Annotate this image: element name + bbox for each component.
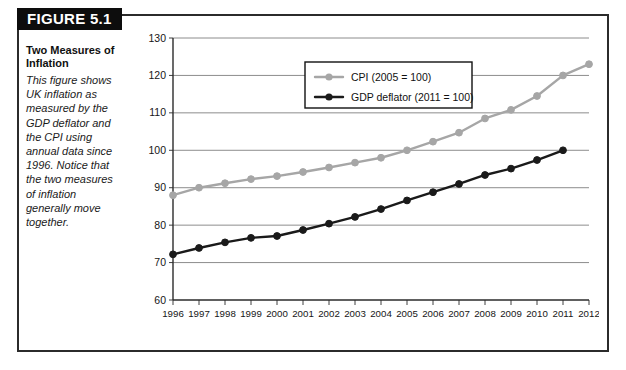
data-point-marker (274, 233, 281, 240)
inflation-line-chart: 6070809010011012013019961997199819992000… (133, 24, 599, 340)
figure-caption: Two Measures of Inflation This figure sh… (26, 44, 122, 229)
data-point-marker (222, 180, 229, 187)
y-axis-tick-label: 90 (154, 181, 166, 193)
data-point-marker (196, 184, 203, 191)
x-axis-tick-label: 2010 (526, 308, 548, 319)
x-axis-tick-label: 1997 (188, 308, 210, 319)
y-axis-tick-label: 130 (148, 32, 166, 44)
data-point-marker (326, 220, 333, 227)
chart-legend: CPI (2005 = 100)GDP deflator (2011 = 100… (305, 62, 473, 108)
data-point-marker (560, 147, 567, 154)
caption-title: Two Measures of Inflation (26, 44, 122, 70)
data-point-marker (196, 245, 203, 252)
data-point-marker (430, 189, 437, 196)
data-point-marker (352, 159, 359, 166)
data-point-marker (508, 106, 515, 113)
data-point-marker (222, 239, 229, 246)
data-point-marker (326, 164, 333, 171)
x-axis-tick-label: 2012 (578, 308, 599, 319)
data-point-marker (404, 147, 411, 154)
y-axis-tick-label: 70 (154, 256, 166, 268)
series-line (173, 150, 563, 254)
legend-swatch-marker (325, 93, 332, 100)
x-axis-tick-label: 2008 (474, 308, 496, 319)
data-point-marker (352, 214, 359, 221)
data-point-marker (482, 172, 489, 179)
x-axis-tick-label: 2006 (422, 308, 444, 319)
chart-plot-area: 6070809010011012013019961997199819992000… (133, 24, 599, 340)
y-axis-tick-label: 100 (148, 144, 166, 156)
x-axis-tick-label: 2000 (266, 308, 288, 319)
caption-body: This figure shows UK inflation as measur… (26, 73, 122, 229)
data-point-marker (586, 61, 593, 68)
data-point-marker (378, 206, 385, 213)
y-axis-tick-label: 80 (154, 219, 166, 231)
data-point-marker (274, 173, 281, 180)
data-point-marker (534, 93, 541, 100)
data-point-marker (508, 165, 515, 172)
figure-number-banner: FIGURE 5.1 (17, 8, 122, 30)
legend-swatch-marker (325, 73, 332, 80)
x-axis-tick-label: 1998 (214, 308, 236, 319)
data-point-marker (300, 169, 307, 176)
x-axis-tick-label: 2002 (318, 308, 340, 319)
data-point-marker (300, 227, 307, 234)
data-point-marker (430, 138, 437, 145)
y-axis-tick-label: 110 (149, 106, 166, 118)
x-axis-tick-label: 1996 (162, 308, 184, 319)
x-axis-tick-label: 2005 (396, 308, 418, 319)
figure-container: FIGURE 5.1 Two Measures of Inflation Thi… (0, 0, 626, 370)
data-point-marker (456, 181, 463, 188)
y-axis-tick-label: 60 (154, 294, 166, 306)
data-point-marker (560, 72, 567, 79)
data-point-marker (534, 157, 541, 164)
data-point-marker (378, 154, 385, 161)
x-axis-tick-label: 1999 (240, 308, 262, 319)
data-point-marker (170, 251, 177, 258)
data-point-marker (170, 192, 177, 199)
data-point-marker (248, 176, 255, 183)
x-axis-tick-label: 2003 (344, 308, 366, 319)
legend-label: CPI (2005 = 100) (351, 71, 431, 83)
x-axis-tick-label: 2007 (448, 308, 470, 319)
data-point-marker (456, 129, 463, 136)
data-point-marker (482, 115, 489, 122)
data-point-marker (404, 197, 411, 204)
data-point-marker (248, 234, 255, 241)
x-axis-tick-label: 2004 (370, 308, 392, 319)
legend-label: GDP deflator (2011 = 100) (351, 91, 473, 103)
x-axis-tick-label: 2011 (553, 308, 574, 319)
x-axis-tick-label: 2009 (500, 308, 522, 319)
y-axis-tick-label: 120 (148, 69, 166, 81)
x-axis-tick-label: 2001 (292, 308, 314, 319)
